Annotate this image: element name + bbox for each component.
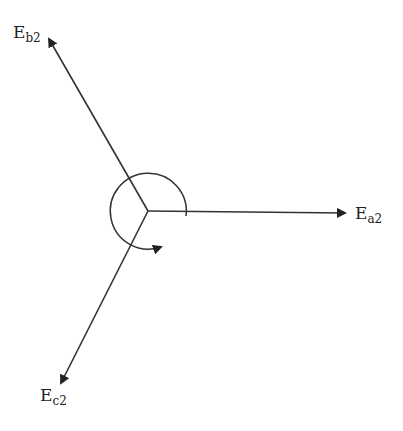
label-ec2-sub: c2 [52,394,66,408]
phasor-ec2-line [61,211,148,383]
phasor-eb2-line [49,39,148,211]
label-eb2-sub: b2 [25,31,40,45]
label-eb2-base: E [13,22,25,42]
label-ec2: Ec2 [40,387,67,407]
label-ec2-base: E [40,385,52,405]
label-eb2: Eb2 [13,24,41,44]
phasor-diagram [0,0,403,431]
phasor-ea2-line [148,211,345,213]
label-ea2: Ea2 [355,205,382,225]
label-ea2-base: E [355,203,367,223]
label-ea2-sub: a2 [367,212,382,226]
